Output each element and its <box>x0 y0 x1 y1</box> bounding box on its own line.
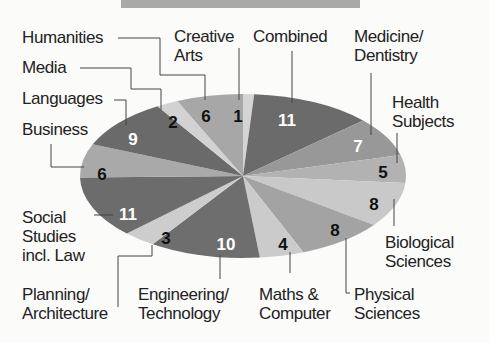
label-line: Social <box>22 208 85 227</box>
label-line: Planning/ <box>22 285 108 304</box>
pie-slices <box>80 94 406 258</box>
label-line: Creative <box>174 27 234 46</box>
label-languages: Languages <box>22 89 103 108</box>
label-line: Dentistry <box>354 46 423 65</box>
label-line: Health <box>392 93 454 112</box>
slice-value: 7 <box>353 137 362 156</box>
slice-value: 4 <box>278 235 288 254</box>
label-physical-sciences: Physical Sciences <box>354 285 420 323</box>
label-line: Technology <box>138 304 229 323</box>
label-media: Media <box>22 58 66 77</box>
label-line: Sciences <box>385 252 454 271</box>
slice-value: 11 <box>119 205 137 224</box>
label-line: Biological <box>385 233 454 252</box>
label-line: Medicine/ <box>354 27 423 46</box>
slice-value: 5 <box>378 163 387 182</box>
slice-value: 10 <box>217 235 236 254</box>
slice-value: 8 <box>330 221 339 240</box>
slice-value: 2 <box>168 113 177 132</box>
label-biological-sciences: Biological Sciences <box>385 233 454 271</box>
label-line: Sciences <box>354 304 420 323</box>
label-line: Subjects <box>392 112 454 131</box>
slice-value: 11 <box>278 111 296 130</box>
label-combined: Combined <box>253 27 327 46</box>
label-line: Physical <box>354 285 420 304</box>
label-humanities: Humanities <box>22 28 103 47</box>
slice-value: 9 <box>128 130 137 149</box>
label-line: Maths & <box>259 285 330 304</box>
label-line: Studies <box>22 227 85 246</box>
label-business: Business <box>22 120 88 139</box>
label-line: Architecture <box>22 304 108 323</box>
label-medicine-dentistry: Medicine/ Dentistry <box>354 27 423 65</box>
label-line: Engineering/ <box>138 285 229 304</box>
slice-value: 6 <box>201 107 210 126</box>
label-engineering-technology: Engineering/ Technology <box>138 285 229 323</box>
label-creative-arts: Creative Arts <box>174 27 234 65</box>
slice-value: 3 <box>161 229 170 248</box>
slice-value: 6 <box>97 165 106 184</box>
label-line: Arts <box>174 46 234 65</box>
label-maths-computer: Maths & Computer <box>259 285 330 323</box>
slice-value: 1 <box>233 107 242 126</box>
label-social-studies: Social Studies incl. Law <box>22 208 85 265</box>
label-line: incl. Law <box>22 246 85 265</box>
label-line: Computer <box>259 304 330 323</box>
label-planning-architecture: Planning/ Architecture <box>22 285 108 323</box>
slice-value: 8 <box>369 195 378 214</box>
label-health-subjects: Health Subjects <box>392 93 454 131</box>
